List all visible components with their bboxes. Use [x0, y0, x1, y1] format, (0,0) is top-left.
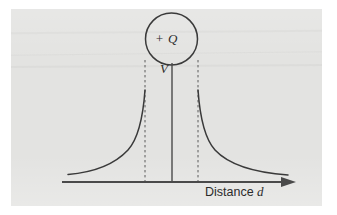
charge-label: + Q: [155, 32, 178, 45]
potential-curve-left: [68, 90, 145, 175]
figure-root: + Q V Distance d: [0, 0, 337, 215]
distance-axis-word: Distance: [205, 185, 257, 199]
distance-axis-arrowhead: [281, 177, 296, 187]
potential-curve-right: [198, 90, 288, 175]
potential-label: V: [160, 62, 168, 75]
distance-axis-symbol: d: [257, 184, 264, 199]
distance-axis-label: Distance d: [205, 185, 264, 199]
